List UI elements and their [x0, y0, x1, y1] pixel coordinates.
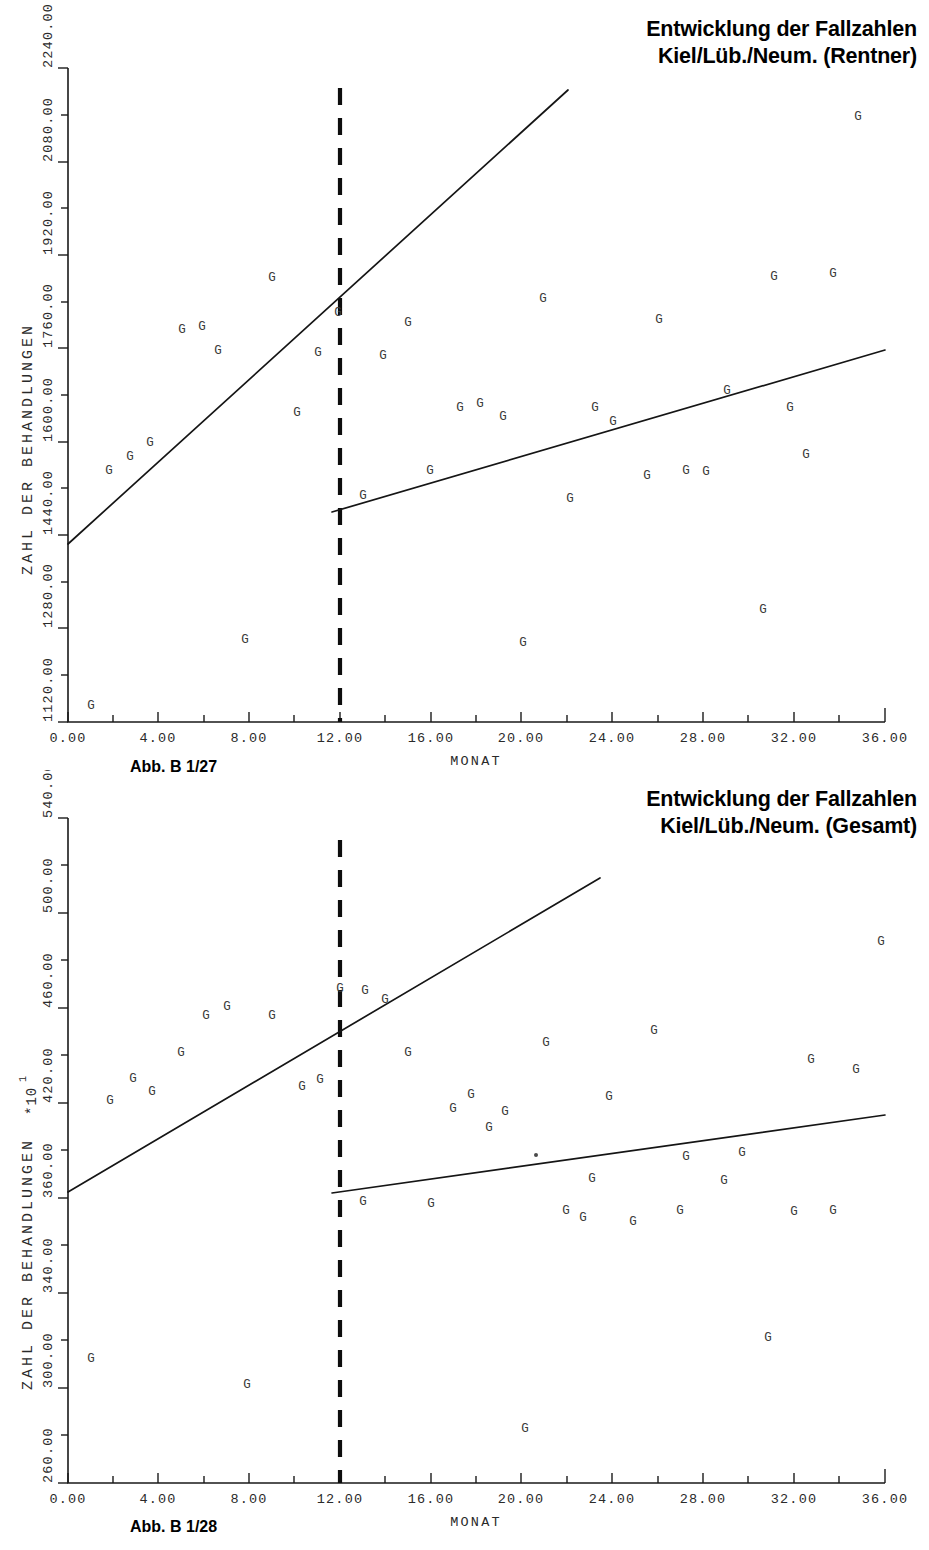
data-point: G: [485, 1121, 493, 1135]
data-point: G: [105, 464, 113, 478]
x-tick-label: 24.00: [589, 731, 636, 746]
data-point: G: [499, 410, 507, 424]
data-point: G: [126, 450, 134, 464]
data-point: G: [316, 1073, 324, 1087]
x-tick-label: 0.00: [49, 731, 86, 746]
data-point: G: [702, 465, 710, 479]
data-point: G: [764, 1331, 772, 1345]
data-point: G: [807, 1053, 815, 1067]
scatter-svg-gesamt: 0.00 4.00 8.00 12.00 16.00 20.00 24.00 2…: [0, 770, 929, 1550]
data-point: G: [542, 1036, 550, 1050]
data-point: G: [852, 1063, 860, 1077]
x-tick-label: 20.00: [498, 731, 545, 746]
y-tick-label: 1760.00: [41, 283, 56, 348]
data-point: G: [106, 1094, 114, 1108]
axis-frame-rentner: [68, 68, 885, 722]
data-point: G: [650, 1024, 658, 1038]
data-point: G: [643, 469, 651, 483]
y-tick-label: 1440.00: [41, 470, 56, 535]
scatter-svg-rentner: 0.00 4.00 8.00 12.00 16.00 20.00 24.00 2…: [0, 0, 929, 780]
data-point: G: [476, 397, 484, 411]
y-tick-labels-rentner: 1120.00 1280.00 1440.00 1600.00 1760.00 …: [41, 3, 56, 722]
y-tick-label: 340.00: [41, 1237, 56, 1293]
y-tick-label: 540.00: [41, 770, 56, 818]
x-tick-label: 20.00: [498, 1492, 545, 1507]
data-point: G: [334, 306, 342, 320]
x-tick-label: 28.00: [680, 731, 727, 746]
y-tick-label: 1280.00: [41, 563, 56, 628]
chart-panel-rentner: Entwicklung der Fallzahlen Kiel/Lüb./Neu…: [0, 0, 929, 780]
data-point: G: [629, 1215, 637, 1229]
y-tick-labels-gesamt: 260.00 300.00 340.00 360.00 420.00 460.0…: [41, 770, 56, 1483]
y-tick-label: 1920.00: [41, 190, 56, 255]
x-axis-title-gesamt: MONAT: [450, 1515, 502, 1530]
data-point: G: [588, 1172, 596, 1186]
data-point: G: [655, 313, 663, 327]
data-point: G: [790, 1205, 798, 1219]
data-point: G: [759, 603, 767, 617]
data-point: G: [223, 1000, 231, 1014]
data-points-gesamt: G G G G G G G G G G G G G G G G G G G G: [87, 935, 885, 1436]
x-tick-label: 32.00: [771, 731, 818, 746]
x-tick-label: 0.00: [49, 1492, 86, 1507]
x-tick-label: 36.00: [862, 1492, 909, 1507]
data-point: G: [293, 406, 301, 420]
x-tick-label: 16.00: [408, 1492, 455, 1507]
data-point: G: [539, 292, 547, 306]
data-point: G: [682, 1150, 690, 1164]
data-point: G: [682, 464, 690, 478]
data-point: G: [404, 1046, 412, 1060]
data-point: G: [241, 633, 249, 647]
data-point: G: [449, 1102, 457, 1116]
y-tick-label: 1120.00: [41, 657, 56, 722]
y-tick-label: 360.00: [41, 1142, 56, 1198]
data-point: G: [146, 436, 154, 450]
x-tick-label: 12.00: [317, 731, 364, 746]
data-point: G: [198, 320, 206, 334]
y-axis-multiplier-exponent: 1: [18, 1075, 29, 1082]
data-point: G: [381, 993, 389, 1007]
data-point: G: [521, 1422, 529, 1436]
x-tick-labels-rentner: 0.00 4.00 8.00 12.00 16.00 20.00 24.00 2…: [49, 731, 908, 746]
x-tick-label: 4.00: [139, 731, 176, 746]
data-point: G: [426, 464, 434, 478]
axis-frame-gesamt: [68, 818, 885, 1483]
x-tick-label: 8.00: [230, 731, 267, 746]
data-point: G: [359, 1195, 367, 1209]
data-point: G: [178, 323, 186, 337]
x-tick-label: 4.00: [139, 1492, 176, 1507]
data-point: G: [202, 1009, 210, 1023]
x-axis-title-rentner: MONAT: [450, 754, 502, 769]
x-tick-label: 28.00: [680, 1492, 727, 1507]
data-point: G: [404, 316, 412, 330]
y-tick-label: 300.00: [41, 1332, 56, 1388]
data-point: G: [456, 401, 464, 415]
figure-caption-gesamt: Abb. B 1/28: [130, 1518, 217, 1536]
x-tick-label: 8.00: [230, 1492, 267, 1507]
y-axis-multiplier-base: *10: [24, 1087, 40, 1115]
y-tick-label: 2080.00: [41, 97, 56, 162]
data-point: G: [87, 699, 95, 713]
data-point: G: [361, 984, 369, 998]
x-tick-label: 32.00: [771, 1492, 818, 1507]
y-tick-label: 460.00: [41, 952, 56, 1008]
y-tick-label: 420.00: [41, 1047, 56, 1103]
y-axis-multiplier-gesamt: *10 1: [18, 1075, 40, 1115]
trend-lines-gesamt: [68, 878, 885, 1193]
data-point: G: [605, 1090, 613, 1104]
data-point: G: [268, 271, 276, 285]
data-point: G: [148, 1085, 156, 1099]
data-point: G: [579, 1211, 587, 1225]
data-point: G: [129, 1072, 137, 1086]
data-point: G: [802, 448, 810, 462]
chart-panel-gesamt: Entwicklung der Fallzahlen Kiel/Lüb./Neu…: [0, 770, 929, 1550]
data-point: G: [566, 492, 574, 506]
data-point: G: [243, 1378, 251, 1392]
data-point: G: [359, 489, 367, 503]
data-point: G: [720, 1174, 728, 1188]
data-point: G: [877, 935, 885, 949]
x-ticks-gesamt: [68, 1469, 885, 1483]
data-point: G: [854, 110, 862, 124]
data-point: G: [723, 384, 731, 398]
data-point: G: [786, 401, 794, 415]
